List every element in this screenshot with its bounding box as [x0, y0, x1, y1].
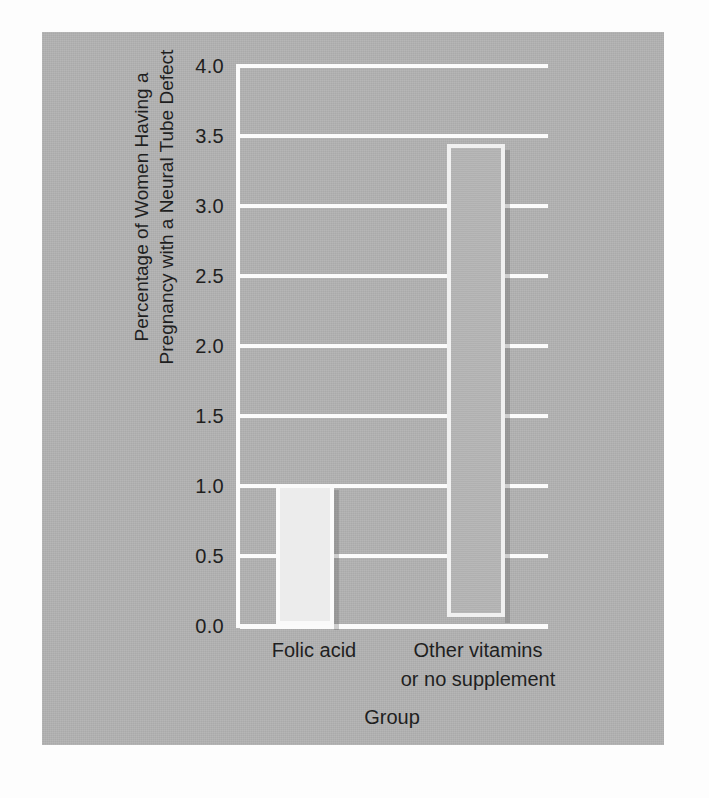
x-tick-label-folic-acid: Folic acid — [236, 636, 392, 665]
plot-area — [236, 64, 548, 628]
page-background: Percentage of Women Having a Pregnancy w… — [0, 0, 709, 798]
bar-other-vitamins-shadow — [505, 150, 510, 623]
y-tick-label: 2.0 — [162, 335, 224, 358]
y-tick-label: 1.0 — [162, 475, 224, 498]
gridline-3-5 — [240, 134, 548, 138]
y-axis-tick-labels: 4.0 3.5 3.0 2.5 2.0 1.5 1.0 0.5 0.0 — [154, 64, 224, 628]
chart-figure-panel: Percentage of Women Having a Pregnancy w… — [42, 32, 664, 745]
y-tick-label: 3.0 — [162, 195, 224, 218]
x-tick-label-other-vitamins: Other vitamins or no supplement — [392, 636, 564, 694]
y-tick-label: 2.5 — [162, 265, 224, 288]
y-tick-label: 4.0 — [162, 55, 224, 78]
y-tick-label: 0.5 — [162, 545, 224, 568]
y-tick-label: 0.0 — [162, 615, 224, 638]
y-tick-label: 1.5 — [162, 405, 224, 428]
x-axis-title: Group — [236, 706, 548, 729]
y-tick-label: 3.5 — [162, 125, 224, 148]
bar-folic-acid-shadow — [334, 490, 339, 630]
bar-folic-acid[interactable] — [276, 484, 334, 625]
bar-other-vitamins[interactable] — [447, 144, 505, 617]
